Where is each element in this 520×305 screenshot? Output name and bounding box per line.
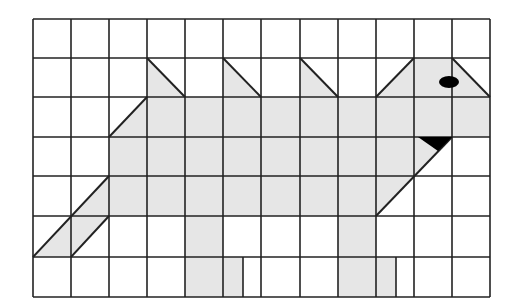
grid-drawing-canvas (0, 0, 520, 305)
eye-icon (439, 76, 459, 88)
leg-front-foot (338, 257, 396, 297)
leg-back-foot (185, 257, 243, 297)
grid-drawing (0, 0, 520, 305)
